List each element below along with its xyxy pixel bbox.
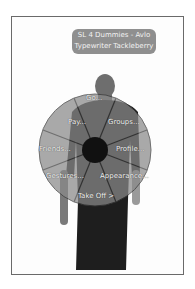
avatar-nametag: SL 4 Dummies - Avlo Typewriter Tackleber… xyxy=(72,29,156,54)
pie-item-groups[interactable]: Groups... xyxy=(108,118,140,126)
pie-item-pay[interactable]: Pay... xyxy=(68,118,86,126)
nametag-line2: Typewriter Tackleberry xyxy=(72,41,156,52)
nametag-line1: SL 4 Dummies - Avlo xyxy=(72,30,156,41)
pie-item-profile[interactable]: Profile... xyxy=(116,145,144,153)
pie-item-appearance[interactable]: Appearance... xyxy=(100,172,149,180)
pie-center[interactable] xyxy=(82,137,108,163)
pie-item-gestures[interactable]: Gestures... xyxy=(46,172,84,180)
pie-item-take-off[interactable]: Take Off > xyxy=(78,192,114,200)
pie-item-go[interactable]: Go... xyxy=(86,94,102,102)
pie-item-friends[interactable]: Friends... xyxy=(39,145,71,153)
